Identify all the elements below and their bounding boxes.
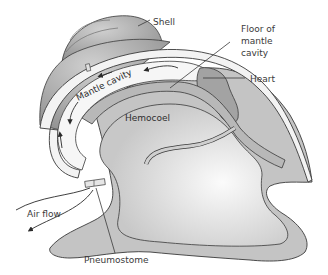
pneumostome bbox=[85, 179, 106, 188]
snail-anatomy-diagram: Shell Floor of mantle cavity Heart Mantl… bbox=[0, 0, 328, 275]
label-floor-line1: Floor of bbox=[241, 24, 276, 34]
label-pneumostome: Pneumostome bbox=[84, 255, 149, 265]
label-hemocoel: Hemocoel bbox=[125, 113, 170, 123]
label-floor-line2: mantle bbox=[241, 36, 273, 46]
label-air-flow: Air flow bbox=[27, 209, 61, 219]
label-shell: Shell bbox=[153, 17, 175, 27]
label-floor-line3: cavity bbox=[241, 48, 269, 58]
label-heart: Heart bbox=[250, 74, 276, 84]
